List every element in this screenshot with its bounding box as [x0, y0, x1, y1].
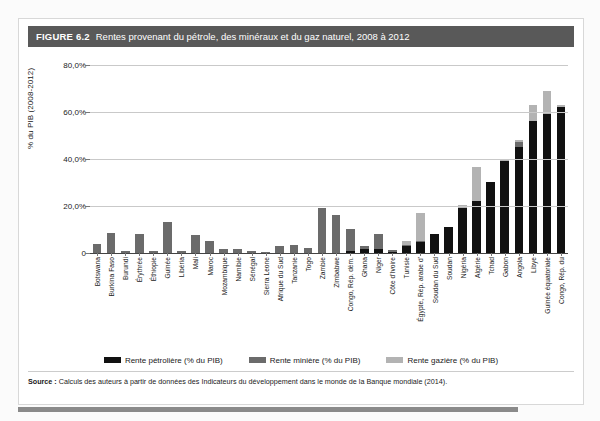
x-label-slot: Guinée équatoriale [540, 257, 554, 349]
bar-group[interactable] [526, 53, 540, 253]
bar-stack[interactable] [318, 208, 327, 253]
bar-group[interactable] [259, 53, 273, 253]
x-tick-label: Mali [192, 257, 199, 269]
bar-segment-oil[interactable] [500, 161, 509, 253]
bar-segment-gas[interactable] [529, 105, 538, 121]
gridline [90, 159, 568, 160]
x-tick-mark [97, 253, 98, 256]
bar-segment-mineral[interactable] [275, 246, 284, 253]
bar-segment-oil[interactable] [458, 208, 467, 253]
bar-segment-oil[interactable] [515, 147, 524, 253]
bar-group[interactable] [343, 53, 357, 253]
bar-group[interactable] [174, 53, 188, 253]
bar-group[interactable] [90, 53, 104, 253]
bar-group[interactable] [231, 53, 245, 253]
bar-group[interactable] [371, 53, 385, 253]
bar-group[interactable] [160, 53, 174, 253]
x-label-slot: Guinée [160, 257, 174, 349]
x-label-slot: Niger [371, 257, 385, 349]
bar-segment-oil[interactable] [472, 201, 481, 253]
bar-segment-mineral[interactable] [135, 234, 144, 253]
bar-segment-oil[interactable] [430, 234, 439, 253]
x-tick-label: Mozambique [220, 257, 227, 295]
bar-segment-oil[interactable] [486, 182, 495, 253]
bar-segment-mineral[interactable] [191, 235, 200, 253]
bar-group[interactable] [245, 53, 259, 253]
bar-segment-mineral[interactable] [107, 233, 116, 253]
bar-segment-oil[interactable] [557, 107, 566, 253]
bar-group[interactable] [301, 53, 315, 253]
bar-segment-gas[interactable] [543, 91, 552, 115]
bar-stack[interactable] [430, 234, 439, 253]
bar-stack[interactable] [458, 205, 467, 253]
bar-segment-mineral[interactable] [93, 244, 102, 253]
bar-stack[interactable] [543, 91, 552, 253]
bar-stack[interactable] [374, 234, 383, 253]
bar-stack[interactable] [402, 241, 411, 253]
bar-stack[interactable] [332, 215, 341, 253]
bar-segment-oil[interactable] [416, 242, 425, 253]
bar-segment-mineral[interactable] [163, 222, 172, 253]
bar-group[interactable] [540, 53, 554, 253]
bar-group[interactable] [132, 53, 146, 253]
bar-group[interactable] [428, 53, 442, 253]
bar-segment-oil[interactable] [402, 246, 411, 253]
bar-segment-mineral[interactable] [205, 241, 214, 253]
legend-item-gas[interactable]: Rente gazière (% du PIB) [386, 356, 498, 365]
bar-stack[interactable] [346, 229, 355, 253]
bar-group[interactable] [484, 53, 498, 253]
bar-stack[interactable] [290, 245, 299, 253]
bar-stack[interactable] [163, 222, 172, 253]
x-label-slot: Soudan [442, 257, 456, 349]
bar-stack[interactable] [135, 234, 144, 253]
bar-segment-mineral[interactable] [374, 234, 383, 249]
bar-stack[interactable] [515, 140, 524, 253]
bar-group[interactable] [399, 53, 413, 253]
bar-stack[interactable] [472, 167, 481, 253]
bar-group[interactable] [470, 53, 484, 253]
bar-group[interactable] [217, 53, 231, 253]
bar-segment-mineral[interactable] [318, 208, 327, 253]
bar-stack[interactable] [205, 241, 214, 253]
bar-group[interactable] [104, 53, 118, 253]
bar-segment-mineral[interactable] [346, 229, 355, 250]
bar-segment-oil[interactable] [529, 121, 538, 253]
bar-segment-gas[interactable] [472, 167, 481, 201]
bar-segment-oil[interactable] [444, 227, 453, 253]
bar-segment-oil[interactable] [543, 114, 552, 253]
bar-segment-mineral[interactable] [332, 215, 341, 253]
bar-group[interactable] [146, 53, 160, 253]
bar-group[interactable] [118, 53, 132, 253]
bar-group[interactable] [273, 53, 287, 253]
bar-stack[interactable] [486, 182, 495, 253]
bar-stack[interactable] [107, 233, 116, 253]
bar-group[interactable] [512, 53, 526, 253]
bar-group[interactable] [385, 53, 399, 253]
x-tick-label: Angola [515, 257, 522, 278]
legend-item-oil[interactable]: Rente pétrolière (% du PIB) [104, 356, 223, 365]
figure-title-bar: FIGURE 6.2 Rentes provenant du pétrole, … [28, 26, 574, 47]
bar-group[interactable] [357, 53, 371, 253]
bar-stack[interactable] [444, 227, 453, 253]
bar-stack[interactable] [360, 246, 369, 253]
bar-group[interactable] [456, 53, 470, 253]
bar-stack[interactable] [416, 213, 425, 253]
bar-stack[interactable] [191, 235, 200, 253]
bar-group[interactable] [413, 53, 427, 253]
bar-group[interactable] [554, 53, 568, 253]
bar-group[interactable] [442, 53, 456, 253]
bar-group[interactable] [203, 53, 217, 253]
bar-stack[interactable] [93, 244, 102, 253]
x-tick-mark [224, 253, 225, 256]
bar-stack[interactable] [529, 105, 538, 253]
bar-group[interactable] [329, 53, 343, 253]
bar-segment-gas[interactable] [416, 213, 425, 241]
legend-item-mineral[interactable]: Rente minière (% du PIB) [249, 356, 361, 365]
bar-group[interactable] [188, 53, 202, 253]
bar-group[interactable] [315, 53, 329, 253]
bar-stack[interactable] [275, 246, 284, 253]
bar-segment-mineral[interactable] [290, 245, 299, 253]
bar-stack[interactable] [557, 105, 566, 253]
bar-group[interactable] [287, 53, 301, 253]
bar-group[interactable] [498, 53, 512, 253]
